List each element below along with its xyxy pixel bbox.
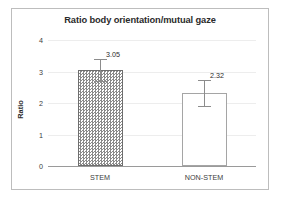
- error-bar-cap: [94, 81, 107, 82]
- error-bar-cap: [198, 106, 211, 107]
- chart-figure: Ratio body orientation/mutual gaze Ratio…: [11, 8, 269, 190]
- data-label-stem: 3.05: [106, 50, 120, 59]
- chart-title: Ratio body orientation/mutual gaze: [12, 15, 268, 25]
- x-axis-tick-label: STEM: [90, 173, 110, 182]
- error-bar-non-stem: [204, 80, 205, 105]
- plot-area: 012343.05STEM2.32NON-STEM: [48, 40, 256, 166]
- y-axis-tick-label: 1: [39, 130, 43, 139]
- error-bar-cap: [94, 59, 107, 60]
- y-axis-tick-label: 3: [39, 67, 43, 76]
- y-axis-tick-label: 4: [39, 36, 43, 45]
- x-axis-tick-label: NON-STEM: [185, 173, 223, 182]
- y-axis-tick-label: 0: [39, 162, 43, 171]
- error-bar-cap: [198, 80, 211, 81]
- gridline: 4: [48, 40, 256, 41]
- error-bar-stem: [100, 59, 101, 82]
- x-axis-line: 0: [48, 166, 256, 167]
- y-axis-tick-label: 2: [39, 99, 43, 108]
- data-label-non-stem: 2.32: [210, 71, 224, 80]
- y-axis-title: Ratio: [16, 90, 25, 130]
- bar-stem[interactable]: [78, 70, 123, 166]
